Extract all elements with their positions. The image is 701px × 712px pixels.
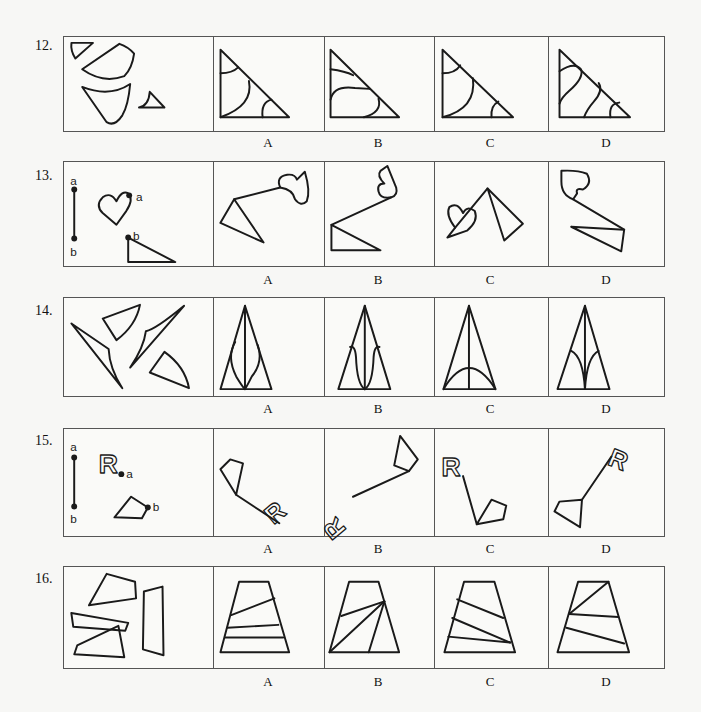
option-label-a: A bbox=[258, 401, 278, 417]
triangle-option-icon bbox=[325, 37, 434, 131]
heart-triangle-option-icon bbox=[435, 162, 548, 266]
svg-text:b: b bbox=[153, 500, 160, 513]
option-label-c: C bbox=[480, 272, 500, 288]
svg-text:R: R bbox=[259, 496, 291, 529]
svg-text:a: a bbox=[136, 190, 143, 203]
question-number: 14. bbox=[35, 303, 53, 319]
question-12-row bbox=[63, 36, 665, 132]
option-label-b: B bbox=[368, 401, 388, 417]
question-number: 16. bbox=[35, 571, 53, 587]
option-label-d: D bbox=[596, 272, 616, 288]
svg-text:b: b bbox=[70, 512, 77, 525]
option-c-cell[interactable] bbox=[434, 162, 548, 266]
option-b-cell[interactable] bbox=[324, 567, 434, 668]
triangle-option-icon bbox=[214, 298, 324, 396]
option-label-d: D bbox=[596, 135, 616, 151]
question-14-pieces bbox=[64, 298, 213, 396]
r-polygon-option-icon: R bbox=[435, 429, 548, 536]
heart-triangle-option-icon bbox=[549, 162, 666, 266]
option-b-cell[interactable] bbox=[324, 37, 434, 131]
question-13-row: a b a b bbox=[63, 161, 665, 267]
question-15-row: a b R a b R R R R bbox=[63, 428, 665, 537]
heart-triangle-option-icon bbox=[325, 162, 434, 266]
trapezoid-option-icon bbox=[325, 567, 434, 668]
option-b-cell[interactable]: R bbox=[324, 429, 434, 536]
triangle-option-icon bbox=[435, 37, 548, 131]
option-label-a: A bbox=[258, 674, 278, 690]
option-d-cell[interactable] bbox=[548, 162, 666, 266]
svg-text:b: b bbox=[70, 245, 77, 258]
option-a-cell[interactable] bbox=[213, 567, 324, 668]
heart-triangle-option-icon bbox=[214, 162, 324, 266]
pieces-figure-icon bbox=[64, 567, 213, 668]
option-d-cell[interactable] bbox=[548, 37, 666, 131]
question-16-pieces bbox=[64, 567, 213, 668]
option-label-d: D bbox=[596, 401, 616, 417]
triangle-option-icon bbox=[435, 298, 548, 396]
option-a-cell[interactable] bbox=[213, 298, 324, 396]
r-polygon-option-icon: R bbox=[549, 429, 666, 536]
option-c-cell[interactable] bbox=[434, 37, 548, 131]
option-label-a: A bbox=[258, 541, 278, 557]
option-label-d: D bbox=[596, 541, 616, 557]
question-number: 13. bbox=[35, 168, 53, 184]
option-label-b: B bbox=[368, 135, 388, 151]
question-12-pieces bbox=[64, 37, 213, 131]
question-number: 12. bbox=[35, 38, 53, 54]
option-d-cell[interactable] bbox=[548, 298, 666, 396]
pieces-figure-icon: a b a b bbox=[64, 162, 213, 266]
question-14-row bbox=[63, 297, 665, 397]
triangle-option-icon bbox=[549, 37, 666, 131]
option-label-d: D bbox=[596, 674, 616, 690]
option-b-cell[interactable] bbox=[324, 162, 434, 266]
option-b-cell[interactable] bbox=[324, 298, 434, 396]
option-d-cell[interactable] bbox=[548, 567, 666, 668]
triangle-option-icon bbox=[214, 37, 324, 131]
option-label-b: B bbox=[368, 272, 388, 288]
trapezoid-option-icon bbox=[435, 567, 548, 668]
option-c-cell[interactable]: R bbox=[434, 429, 548, 536]
question-16-row bbox=[63, 566, 665, 669]
r-polygon-option-icon: R bbox=[325, 429, 434, 536]
question-15-pieces: a b R a b bbox=[64, 429, 213, 536]
svg-text:a: a bbox=[70, 174, 77, 187]
r-polygon-option-icon: R bbox=[214, 429, 324, 536]
svg-text:a: a bbox=[126, 467, 133, 480]
option-c-cell[interactable] bbox=[434, 298, 548, 396]
option-label-b: B bbox=[368, 674, 388, 690]
option-label-c: C bbox=[480, 135, 500, 151]
trapezoid-option-icon bbox=[214, 567, 324, 668]
triangle-option-icon bbox=[325, 298, 434, 396]
option-label-c: C bbox=[480, 674, 500, 690]
option-c-cell[interactable] bbox=[434, 567, 548, 668]
option-label-a: A bbox=[258, 272, 278, 288]
svg-text:a: a bbox=[70, 440, 77, 453]
trapezoid-option-icon bbox=[549, 567, 666, 668]
question-number: 15. bbox=[35, 433, 53, 449]
pieces-figure-icon bbox=[64, 298, 213, 396]
option-a-cell[interactable] bbox=[213, 37, 324, 131]
option-label-a: A bbox=[258, 135, 278, 151]
pieces-figure-icon: a b R a b bbox=[64, 429, 213, 536]
option-a-cell[interactable]: R bbox=[213, 429, 324, 536]
svg-text:b: b bbox=[133, 229, 140, 242]
svg-text:R: R bbox=[441, 452, 460, 482]
svg-text:R: R bbox=[99, 449, 118, 479]
option-label-c: C bbox=[480, 401, 500, 417]
option-label-c: C bbox=[480, 541, 500, 557]
option-d-cell[interactable]: R bbox=[548, 429, 666, 536]
option-label-b: B bbox=[368, 541, 388, 557]
triangle-option-icon bbox=[549, 298, 666, 396]
option-a-cell[interactable] bbox=[213, 162, 324, 266]
pieces-figure-icon bbox=[64, 37, 213, 131]
question-13-pieces: a b a b bbox=[64, 162, 213, 266]
